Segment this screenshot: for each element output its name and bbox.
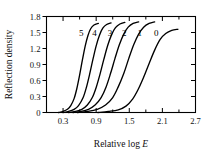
y-axis-title-text: Reflection density (4, 30, 14, 100)
curve-label-3: 3 (108, 28, 113, 38)
y-tick-label-4: 1.2 (30, 44, 41, 54)
curve-label-2: 2 (122, 28, 127, 38)
curve-label-5: 5 (79, 28, 84, 38)
x-tick-label-0: 0.3 (58, 116, 69, 126)
chart-container: 543210 0.30.91.52.12.7 00.30.60.91.21.51… (0, 0, 207, 152)
x-tick-label-2: 1.5 (124, 116, 135, 126)
y-tick-label-1: 0.3 (30, 92, 41, 102)
x-tick-label-3: 2.1 (157, 116, 168, 126)
curve-label-4: 4 (92, 28, 97, 38)
curve-label-0: 0 (154, 28, 159, 38)
y-tick-label-3: 0.9 (30, 60, 41, 70)
x-tick-label-4: 2.7 (190, 116, 201, 126)
x-tick-label-1: 0.9 (91, 116, 102, 126)
x-axis-title-text: Relative log E (94, 139, 149, 149)
y-tick-label-5: 1.5 (30, 28, 41, 38)
y-tick-label-0: 0 (36, 108, 40, 118)
x-axis-title-exposure-symbol: E (141, 139, 148, 149)
y-axis-title: Reflection density (4, 30, 14, 100)
curve-label-1: 1 (138, 28, 143, 38)
x-axis-title: Relative log E (94, 139, 149, 149)
y-tick-label-6: 1.8 (30, 12, 41, 22)
sensitometric-curve-chart: 543210 0.30.91.52.12.7 00.30.60.91.21.51… (0, 0, 207, 152)
y-tick-label-2: 0.6 (30, 76, 41, 86)
